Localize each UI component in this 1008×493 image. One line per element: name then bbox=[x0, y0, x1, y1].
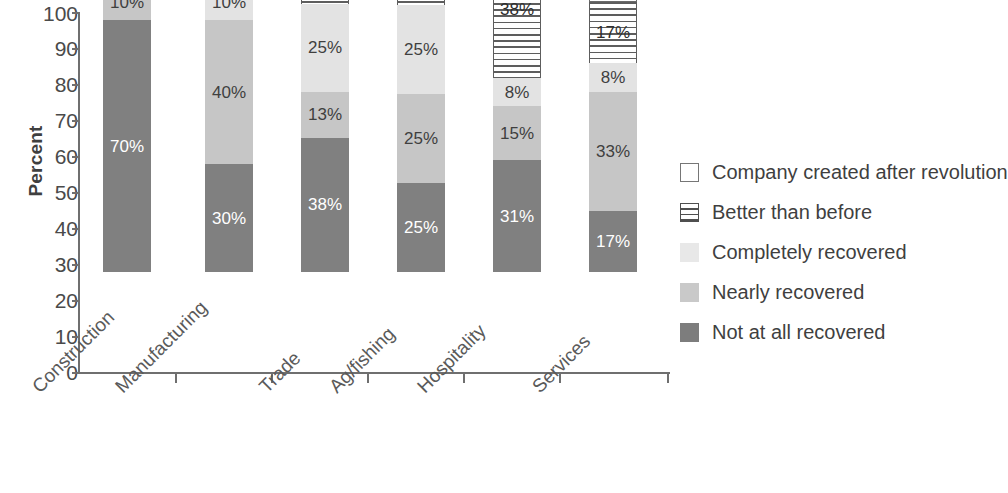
medium-gray-square-icon bbox=[680, 283, 699, 302]
legend-item-nearly-recovered[interactable]: Nearly recovered bbox=[680, 272, 1006, 312]
segment-nearly-recovered: 15% bbox=[493, 106, 541, 160]
segment-completely-recovered: 10% bbox=[205, 0, 253, 20]
segment-better-than-before: 38% bbox=[493, 0, 541, 78]
segment-nearly-recovered: 40% bbox=[205, 20, 253, 164]
segment-completely-recovered: 8% bbox=[493, 78, 541, 107]
segment-better-than-before: 17% bbox=[589, 2, 637, 63]
legend-item-completely-recovered[interactable]: Completely recovered bbox=[680, 232, 1006, 272]
bar-ag-fishing[interactable]: 25% 25% 25% 13% 13% bbox=[397, 0, 445, 272]
segment-completely-recovered: 8% bbox=[589, 63, 637, 92]
x-axis-category-labels: Construction Manufacturing Trade Ag/fish… bbox=[0, 382, 680, 493]
legend-label: Better than before bbox=[712, 201, 872, 224]
segment-nearly-recovered: 13% bbox=[301, 92, 349, 138]
segment-not-at-all-recovered: 25% bbox=[397, 183, 445, 272]
horizontal-hatch-square-icon bbox=[680, 203, 699, 222]
chart-legend: Company created after revolution Better … bbox=[680, 152, 1006, 352]
bar-hospitality[interactable]: 31% 15% 8% 38% 8% bbox=[493, 0, 541, 272]
segment-nearly-recovered: 10% bbox=[103, 0, 151, 20]
legend-item-company-created-after-revolution[interactable]: Company created after revolution bbox=[680, 152, 1006, 192]
segment-not-at-all-recovered: 31% bbox=[493, 160, 541, 272]
segment-better-than-before: 13% bbox=[301, 0, 349, 4]
light-gray-square-icon bbox=[680, 243, 699, 262]
dark-gray-square-icon bbox=[680, 323, 699, 342]
segment-nearly-recovered: 33% bbox=[589, 92, 637, 211]
segment-company-created-after-revolution: 25% bbox=[589, 0, 637, 2]
legend-label: Company created after revolution bbox=[712, 161, 1008, 184]
segment-completely-recovered: 25% bbox=[397, 5, 445, 94]
segment-not-at-all-recovered: 70% bbox=[103, 20, 151, 272]
segment-not-at-all-recovered: 30% bbox=[205, 164, 253, 272]
legend-item-better-than-before[interactable]: Better than before bbox=[680, 192, 1006, 232]
bar-services[interactable]: 17% 33% 8% 17% 25% bbox=[589, 0, 637, 272]
segment-nearly-recovered: 25% bbox=[397, 94, 445, 183]
segment-completely-recovered: 25% bbox=[301, 4, 349, 92]
legend-label: Nearly recovered bbox=[712, 281, 864, 304]
segment-not-at-all-recovered: 17% bbox=[589, 211, 637, 272]
segment-better-than-before: 13% bbox=[397, 0, 445, 5]
legend-label: Completely recovered bbox=[712, 241, 907, 264]
bar-manufacturing[interactable]: 30% 40% 10% 20% bbox=[205, 0, 253, 272]
bar-construction[interactable]: 70% 10% 10% 10% bbox=[103, 0, 151, 272]
legend-item-not-at-all-recovered[interactable]: Not at all recovered bbox=[680, 312, 1006, 352]
bar-trade[interactable]: 38% 13% 25% 13% 13% bbox=[301, 0, 349, 272]
outline-white-square-icon bbox=[680, 163, 699, 182]
legend-label: Not at all recovered bbox=[712, 321, 885, 344]
segment-not-at-all-recovered: 38% bbox=[301, 138, 349, 272]
